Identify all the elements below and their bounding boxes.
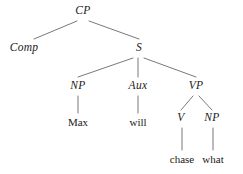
cp-to-s xyxy=(89,21,139,39)
node-np-subject: NP xyxy=(70,80,85,92)
vp-to-v xyxy=(181,96,193,110)
syntax-tree-figure: CP Comp S NP Aux VP V NP Max will chase … xyxy=(0,0,243,174)
node-cp: CP xyxy=(75,5,90,17)
s-to-vp xyxy=(144,58,196,77)
terminal-what: what xyxy=(202,154,223,165)
node-v: V xyxy=(177,112,184,124)
terminal-will: will xyxy=(129,117,146,128)
vp-to-np xyxy=(199,96,212,110)
s-to-np xyxy=(78,58,133,77)
node-s: S xyxy=(136,42,142,54)
terminal-chase: chase xyxy=(170,154,194,165)
node-np-object: NP xyxy=(204,112,219,124)
cp-to-comp xyxy=(34,21,77,39)
node-vp: VP xyxy=(189,80,204,92)
node-aux: Aux xyxy=(129,80,148,92)
tree-edges-layer xyxy=(0,0,243,174)
terminal-max: Max xyxy=(68,117,88,128)
node-comp: Comp xyxy=(10,42,39,54)
